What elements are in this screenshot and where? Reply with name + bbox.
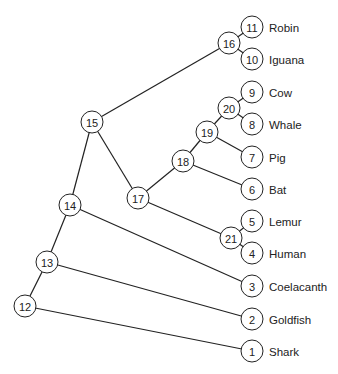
node-number: 5	[249, 216, 255, 228]
leaf-node: 2Goldfish	[241, 308, 311, 330]
node-number: 3	[249, 281, 255, 293]
node-number: 6	[249, 184, 255, 196]
leaf-node: 10Iguana	[241, 48, 305, 70]
leaf-node: 3Coelacanth	[241, 275, 327, 297]
leaf-node: 4Human	[241, 242, 306, 264]
leaf-label: Coelacanth	[269, 281, 327, 293]
node-number: 1	[249, 346, 255, 358]
node-number: 15	[86, 117, 98, 129]
leaf-node: 11Robin	[241, 16, 299, 38]
node-number: 8	[249, 119, 255, 131]
leaf-label: Shark	[269, 346, 299, 358]
node-number: 21	[225, 233, 237, 245]
tree-edge	[138, 198, 231, 238]
tree-edge	[25, 306, 252, 351]
leaf-node: 9Cow	[241, 81, 293, 103]
node-number: 4	[249, 248, 255, 260]
leaf-label: Whale	[269, 119, 302, 131]
leaf-node: 1Shark	[241, 340, 299, 362]
node-number: 11	[246, 22, 257, 34]
leaf-node: 7Pig	[241, 146, 286, 168]
internal-node: 14	[59, 194, 81, 216]
tree-nodes: 1Shark2Goldfish3Coelacanth4Human5Lemur6B…	[14, 16, 327, 362]
node-number: 16	[223, 38, 235, 50]
tree-edge	[47, 262, 252, 319]
node-number: 12	[19, 301, 31, 313]
node-number: 14	[64, 200, 76, 212]
internal-node: 16	[218, 32, 240, 54]
node-number: 2	[249, 314, 255, 326]
internal-node: 20	[218, 97, 240, 119]
internal-node: 13	[36, 251, 58, 273]
internal-node: 18	[172, 150, 194, 172]
leaf-label: Iguana	[269, 54, 305, 66]
node-number: 20	[223, 103, 235, 115]
internal-node: 19	[196, 121, 218, 143]
tree-edge	[92, 43, 229, 122]
leaf-label: Bat	[269, 184, 287, 196]
node-number: 18	[177, 156, 189, 168]
internal-node: 15	[81, 111, 103, 133]
leaf-node: 6Bat	[241, 178, 287, 200]
node-number: 10	[246, 54, 258, 66]
internal-node: 12	[14, 295, 36, 317]
node-number: 7	[249, 152, 255, 164]
node-number: 17	[132, 193, 144, 205]
leaf-label: Goldfish	[269, 314, 311, 326]
leaf-label: Cow	[269, 87, 293, 99]
leaf-label: Pig	[269, 152, 286, 164]
node-number: 13	[41, 257, 53, 269]
node-number: 9	[249, 87, 255, 99]
internal-node: 21	[220, 227, 242, 249]
leaf-label: Human	[269, 248, 306, 260]
phylogenetic-tree: 1Shark2Goldfish3Coelacanth4Human5Lemur6B…	[0, 0, 338, 374]
tree-edge	[70, 122, 92, 205]
node-number: 19	[201, 127, 213, 139]
leaf-label: Robin	[269, 22, 299, 34]
tree-edge	[92, 122, 138, 198]
leaf-node: 8Whale	[241, 113, 302, 135]
leaf-label: Lemur	[269, 216, 302, 228]
leaf-node: 5Lemur	[241, 210, 302, 232]
internal-node: 17	[127, 187, 149, 209]
